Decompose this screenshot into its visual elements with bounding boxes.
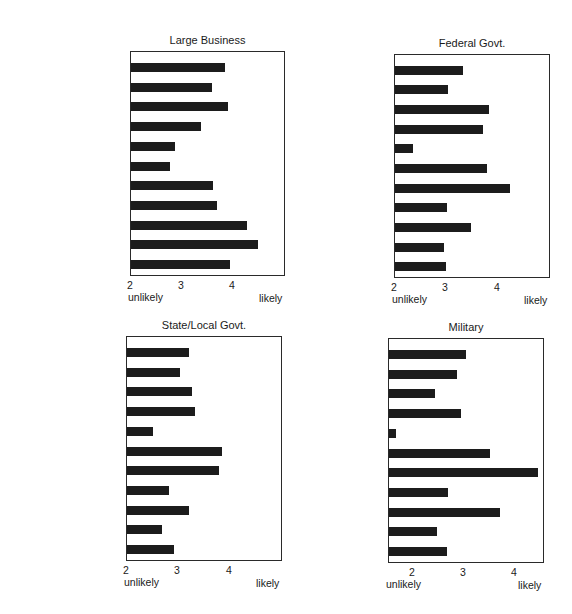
- bar: [395, 66, 463, 75]
- bar: [389, 449, 490, 458]
- bar: [131, 83, 212, 92]
- axis-label-unlikely: unlikely: [392, 293, 427, 305]
- chart-title: State/Local Govt.: [144, 319, 264, 331]
- bar: [127, 447, 222, 456]
- axis-label-likely: likely: [524, 294, 547, 306]
- bar: [131, 102, 228, 111]
- x-tick-label: 2: [127, 279, 133, 291]
- bar: [395, 85, 448, 94]
- bar: [131, 221, 247, 230]
- bar: [389, 429, 396, 438]
- bar: [389, 508, 500, 517]
- bar: [127, 348, 189, 357]
- bar: [127, 466, 219, 475]
- bar: [127, 407, 195, 416]
- axis-label-unlikely: unlikely: [124, 576, 159, 588]
- x-tick-label: 4: [511, 566, 517, 578]
- bar: [395, 262, 446, 271]
- x-tick-label: 3: [460, 566, 466, 578]
- bar: [389, 547, 447, 556]
- axis-label-likely: likely: [518, 579, 541, 591]
- axis-label-likely: likely: [259, 292, 282, 304]
- x-tick-label: 4: [229, 279, 235, 291]
- bar: [395, 164, 487, 173]
- x-tick-label: 3: [178, 279, 184, 291]
- x-tick-label: 2: [123, 564, 129, 576]
- bar: [131, 260, 230, 269]
- x-tick-label: 4: [494, 281, 500, 293]
- x-tick-label: 2: [391, 281, 397, 293]
- bar: [131, 63, 225, 72]
- bar: [127, 427, 153, 436]
- bar: [395, 105, 489, 114]
- bar: [389, 488, 448, 497]
- bar: [131, 201, 217, 210]
- chart-title: Military: [406, 321, 526, 333]
- x-tick-label: 4: [226, 564, 232, 576]
- bar: [389, 468, 538, 477]
- x-tick-label: 2: [409, 566, 415, 578]
- bar: [389, 409, 461, 418]
- bar: [127, 387, 192, 396]
- bar: [395, 243, 444, 252]
- x-tick-label: 3: [442, 281, 448, 293]
- bar: [395, 184, 510, 193]
- bar: [127, 525, 162, 534]
- chart-title: Federal Govt.: [412, 37, 532, 49]
- bar: [131, 240, 258, 249]
- bar: [131, 181, 213, 190]
- x-tick-label: 3: [174, 564, 180, 576]
- bar: [395, 125, 483, 134]
- bar: [127, 545, 174, 554]
- bar: [127, 368, 180, 377]
- bar: [389, 370, 457, 379]
- chart-title: Large Business: [148, 34, 268, 46]
- bar: [389, 389, 435, 398]
- bar: [389, 527, 437, 536]
- bar: [395, 223, 471, 232]
- axis-label-unlikely: unlikely: [128, 291, 163, 303]
- bar: [131, 162, 170, 171]
- bar: [395, 144, 413, 153]
- bar: [127, 486, 169, 495]
- axis-label-likely: likely: [256, 577, 279, 589]
- bar: [127, 506, 189, 515]
- bar: [131, 142, 175, 151]
- bar: [395, 203, 447, 212]
- bar: [389, 350, 466, 359]
- bar: [131, 122, 201, 131]
- axis-label-unlikely: unlikely: [386, 578, 421, 590]
